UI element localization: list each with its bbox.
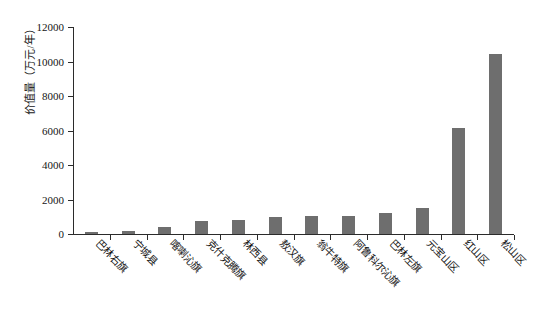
bar [305, 216, 318, 234]
y-tick-mark [68, 200, 73, 201]
y-tick-label: 10000 [37, 56, 65, 68]
bar [195, 221, 208, 234]
bar [269, 217, 282, 234]
bar [489, 54, 502, 234]
x-tick-label: 巴林左旗 [387, 238, 424, 275]
bar [158, 227, 171, 234]
bar [122, 231, 135, 234]
plot-area: 120001000080006000400020000 [73, 27, 514, 235]
bar [85, 232, 98, 234]
bar [452, 128, 465, 234]
bar [232, 220, 245, 234]
x-tick-label: 红山区 [460, 238, 490, 268]
y-tick-label: 6000 [42, 125, 64, 137]
y-tick-mark [68, 131, 73, 132]
bar-chart-figure: 价值量（万元/年） 120001000080006000400020000 巴林… [0, 0, 535, 329]
x-tick-label: 元宝山区 [424, 238, 461, 275]
x-tick-label: 松山区 [497, 238, 527, 268]
y-tick-label: 12000 [37, 21, 65, 33]
x-tick-label: 敖汉旗 [277, 238, 307, 268]
y-tick-label: 4000 [42, 159, 64, 171]
y-tick-label: 2000 [42, 194, 64, 206]
x-tick-label: 巴林右旗 [93, 238, 130, 275]
y-axis-line [73, 27, 74, 235]
y-tick-mark [68, 27, 73, 28]
x-tick-label: 喀喇沁旗 [166, 238, 203, 275]
x-axis-labels: 巴林右旗宁城县喀喇沁旗克什克腾旗林西县敖汉旗翁牛特旗阿鲁科尔沁旗巴林左旗元宝山区… [73, 238, 514, 329]
y-tick-label: 0 [59, 228, 65, 240]
x-tick-label: 宁城县 [130, 238, 160, 268]
y-tick-mark [68, 165, 73, 166]
y-tick-mark [68, 96, 73, 97]
y-tick-mark [68, 62, 73, 63]
y-tick-mark [68, 234, 73, 235]
bar [379, 213, 392, 234]
bar [342, 216, 355, 234]
y-tick-label: 8000 [42, 90, 64, 102]
x-tick-mark [514, 235, 515, 240]
x-tick-label: 林西县 [240, 238, 270, 268]
bar [416, 208, 429, 234]
x-tick-label: 翁牛特旗 [313, 238, 350, 275]
